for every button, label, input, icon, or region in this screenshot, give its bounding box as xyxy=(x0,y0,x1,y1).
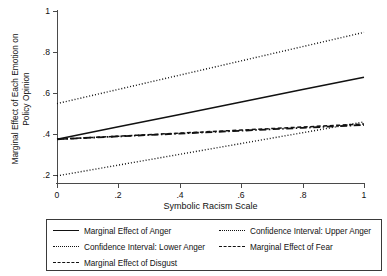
y-tick-label-1: 1 xyxy=(28,6,50,16)
legend-label-lower-ci: Confidence Interval: Lower Anger xyxy=(84,243,205,252)
y-axis-title-line1: Marginal Effect of Each Emotion on xyxy=(10,6,21,192)
x-tick-02 xyxy=(118,184,119,188)
legend-item-upper-ci[interactable]: Confidence Interval: Upper Anger xyxy=(219,224,371,238)
x-tick-label-1: 1 xyxy=(351,190,377,200)
series-layer xyxy=(57,11,364,183)
x-tick-06 xyxy=(241,184,242,188)
legend-swatch-fear xyxy=(219,242,245,252)
x-tick-label-08: .8 xyxy=(290,190,316,200)
legend-swatch-upper-ci xyxy=(219,226,245,236)
y-axis-title-line2: Policy Opinion xyxy=(21,6,32,192)
x-tick-0 xyxy=(57,184,58,188)
legend-label-anger: Marginal Effect of Anger xyxy=(84,227,171,236)
x-tick-1 xyxy=(364,184,365,188)
x-tick-04 xyxy=(180,184,181,188)
legend-label-fear: Marginal Effect of Fear xyxy=(250,243,333,252)
y-axis-title: Marginal Effect of Each Emotion on Polic… xyxy=(10,6,32,192)
x-axis-line xyxy=(56,183,365,184)
x-tick-08 xyxy=(303,184,304,188)
legend-item-disgust[interactable]: Marginal Effect of Disgust xyxy=(53,256,177,270)
y-tick-label-08: .8 xyxy=(28,47,50,57)
plot-area xyxy=(57,11,364,183)
legend-box: Marginal Effect of Anger Confidence Inte… xyxy=(46,219,382,271)
chart-root: Marginal Effect of Each Emotion on Polic… xyxy=(0,0,387,276)
legend-item-fear[interactable]: Marginal Effect of Fear xyxy=(219,240,333,254)
legend-label-disgust: Marginal Effect of Disgust xyxy=(84,259,177,268)
legend-label-upper-ci: Confidence Interval: Upper Anger xyxy=(250,227,371,236)
legend-swatch-anger xyxy=(53,226,79,236)
legend-swatch-disgust xyxy=(53,258,79,268)
y-tick-label-04: .4 xyxy=(28,129,50,139)
x-tick-label-04: .4 xyxy=(167,190,193,200)
legend-item-anger[interactable]: Marginal Effect of Anger xyxy=(53,224,171,238)
x-axis-title: Symbolic Racism Scale xyxy=(57,201,364,211)
y-tick-label-06: .6 xyxy=(28,88,50,98)
y-tick-label-02: .2 xyxy=(28,170,50,180)
legend-swatch-lower-ci xyxy=(53,242,79,252)
legend-item-lower-ci[interactable]: Confidence Interval: Lower Anger xyxy=(53,240,205,254)
series-line xyxy=(57,32,364,103)
x-tick-label-0: 0 xyxy=(44,190,70,200)
x-tick-label-02: .2 xyxy=(105,190,131,200)
x-tick-label-06: .6 xyxy=(228,190,254,200)
